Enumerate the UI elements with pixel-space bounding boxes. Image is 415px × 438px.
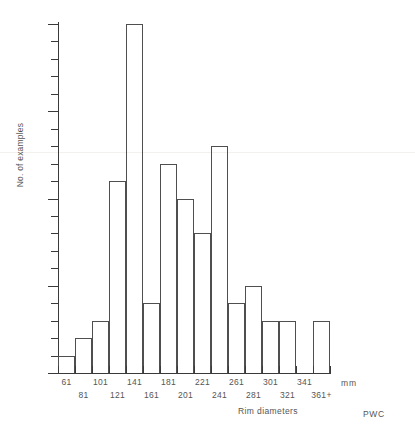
y-axis-minor-tick — [51, 94, 58, 95]
x-axis-tick — [313, 366, 314, 374]
histogram-bar — [126, 24, 143, 373]
x-axis-tick-label: 81 — [78, 391, 88, 400]
x-axis-tick — [109, 366, 110, 374]
x-axis-tick-label: 241 — [212, 391, 227, 400]
x-axis-tick — [92, 366, 93, 374]
y-axis-minor-tick — [51, 164, 58, 165]
y-tick-label-wrap: 5 — [0, 286, 58, 287]
x-axis-tick-label: 361+ — [311, 391, 331, 400]
y-axis-minor-tick — [51, 146, 58, 147]
x-axis-tick-label: 181 — [161, 378, 176, 387]
histogram-bar — [211, 146, 228, 373]
histogram-bar — [228, 303, 245, 373]
x-axis-tick — [194, 366, 195, 374]
x-axis-tick — [143, 366, 144, 374]
y-tick-label-wrap: 15 — [0, 111, 58, 112]
y-axis-minor-tick — [51, 181, 58, 182]
x-axis-tick — [160, 366, 161, 374]
y-tick-label-wrap: 20 — [0, 24, 58, 25]
x-axis-tick — [58, 366, 59, 374]
x-axis-tick-label: 221 — [195, 378, 210, 387]
x-axis-tick-label: 161 — [144, 391, 159, 400]
y-axis-minor-tick — [51, 76, 58, 77]
histogram-bar — [58, 356, 75, 373]
y-axis-minor-tick — [51, 303, 58, 304]
x-axis-tick-label: 321 — [280, 391, 295, 400]
x-axis-tick-label: 301 — [263, 378, 278, 387]
y-axis-minor-tick — [51, 321, 58, 322]
x-axis-tick-label: 141 — [127, 378, 142, 387]
y-tick-label-wrap: 10 — [0, 199, 58, 200]
x-axis-tick-label: 341 — [297, 378, 312, 387]
histogram-bar — [194, 233, 211, 373]
x-axis-unit-label: mm — [341, 378, 357, 388]
y-axis-minor-tick — [51, 129, 58, 130]
y-axis-minor-tick — [51, 59, 58, 60]
x-axis-tick — [279, 366, 280, 374]
histogram-bar — [160, 164, 177, 373]
x-axis-tick-label: 101 — [93, 378, 108, 387]
y-axis-title: No. of examples — [15, 95, 25, 215]
y-axis-minor-tick — [51, 41, 58, 42]
y-axis-minor-tick — [51, 338, 58, 339]
x-axis-tick — [296, 366, 297, 374]
x-axis-tick — [211, 366, 212, 374]
x-axis-tick-label: 261 — [229, 378, 244, 387]
x-axis-tick — [245, 366, 246, 374]
y-tick-label-wrap: 0 — [0, 373, 58, 374]
x-axis-tick — [126, 366, 127, 374]
x-axis-tick — [75, 366, 76, 374]
x-axis-tick — [177, 366, 178, 374]
histogram-bar — [245, 286, 262, 373]
x-axis-tick — [228, 366, 229, 374]
histogram-bar — [313, 321, 330, 373]
histogram-bar — [109, 181, 126, 373]
x-axis-tick-label: 61 — [61, 378, 71, 387]
histogram-bar — [177, 199, 194, 374]
histogram-chart: Rim diameter chart 05101520 No. of examp… — [0, 0, 415, 438]
histogram-bar — [262, 321, 279, 373]
histogram-bar — [143, 303, 160, 373]
x-axis-tick — [262, 366, 263, 374]
histogram-bar — [92, 321, 109, 373]
x-axis-tick — [330, 366, 331, 374]
x-axis-tick-label: 121 — [110, 391, 125, 400]
y-axis-minor-tick — [51, 233, 58, 234]
plot-area: 05101520 No. of examples 618110112114116… — [0, 0, 415, 438]
y-axis-minor-tick — [51, 356, 58, 357]
y-axis-minor-tick — [51, 251, 58, 252]
y-axis-minor-tick — [51, 216, 58, 217]
x-axis-tick-label: 281 — [246, 391, 261, 400]
y-axis-minor-tick — [51, 268, 58, 269]
histogram-bar — [279, 321, 296, 373]
credit-label: PWC — [363, 409, 385, 419]
x-axis-tick-label: 201 — [178, 391, 193, 400]
x-axis-title: Rim diameters — [238, 406, 298, 416]
histogram-bar — [75, 338, 92, 373]
